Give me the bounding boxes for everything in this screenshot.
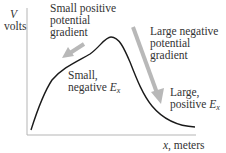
large-field-subscript: x xyxy=(216,103,220,112)
small-gradient-arrow-icon xyxy=(62,44,84,58)
small-field-subscript: x xyxy=(117,86,121,95)
large-field-line1: Large, xyxy=(170,86,199,99)
large-gradient-line2: potential xyxy=(150,37,190,50)
small-gradient-line2: potential xyxy=(50,14,90,27)
large-gradient-line3: gradient xyxy=(150,49,188,62)
y-axis-unit: volts xyxy=(4,20,26,33)
x-axis-label: x, meters xyxy=(163,139,205,152)
x-axis-unit: , meters xyxy=(168,139,204,151)
potential-plot xyxy=(0,0,226,153)
small-field-line1: Small, xyxy=(68,69,98,82)
large-field-line2: positive Ex xyxy=(170,98,220,115)
large-gradient-line1: Large negative xyxy=(150,25,218,38)
y-axis-symbol: V xyxy=(10,8,17,21)
small-field-line2: negative Ex xyxy=(68,81,120,98)
small-field-symbol: E xyxy=(110,81,117,93)
large-field-prefix: positive xyxy=(170,98,209,110)
small-gradient-line1: Small positive xyxy=(50,2,116,15)
small-gradient-line3: gradient xyxy=(50,26,88,39)
small-field-prefix: negative xyxy=(68,81,110,93)
